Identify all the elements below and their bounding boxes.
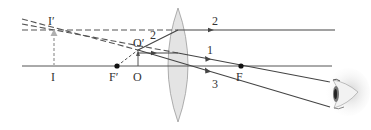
label-image-base: I — [51, 70, 55, 84]
ray2-focal-dashed — [117, 50, 138, 66]
ray1-refracted — [178, 53, 330, 82]
label-ray2-after: 2 — [212, 14, 218, 28]
converging-lens — [168, 8, 188, 122]
focal-point-left — [114, 63, 119, 68]
focal-point-right — [238, 63, 243, 68]
label-ray1: 1 — [207, 43, 213, 57]
label-ray2-before: 2 — [150, 28, 156, 42]
label-ray3: 3 — [212, 77, 218, 91]
label-object-base: O — [133, 70, 142, 84]
ray3 — [138, 50, 330, 107]
label-focal-right: F — [236, 70, 243, 84]
ray-diagram: I′ I F′ O O′ F 1 2 2 3 — [0, 0, 371, 130]
eye-icon — [326, 68, 370, 116]
label-focal-left: F′ — [109, 70, 119, 84]
label-image-top: I′ — [48, 14, 55, 28]
ray3-arrow — [205, 68, 211, 74]
ray2-arrow — [208, 28, 214, 32]
label-object-top: O′ — [133, 36, 145, 50]
